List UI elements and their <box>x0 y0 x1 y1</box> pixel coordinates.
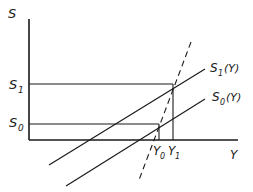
diagram-canvas: S Y S 1 S 0 S 1 (Y) S 0 (Y) Y 0 Y 1 <box>0 0 253 192</box>
s1-level-sub: 1 <box>18 85 24 95</box>
s-axis-label: S <box>8 6 16 21</box>
s1-curve-arg: (Y) <box>224 62 239 75</box>
s1-level-label: S <box>9 77 17 92</box>
s0-level-label: S <box>9 115 17 130</box>
s0-curve-label: S <box>212 90 220 104</box>
y1-sub: 1 <box>175 152 180 161</box>
s1-curve-sub: 1 <box>218 69 223 78</box>
s1-curve-label: S <box>210 61 218 75</box>
y0-sub: 0 <box>160 152 165 161</box>
savings-income-diagram: S Y S 1 S 0 S 1 (Y) S 0 (Y) Y 0 Y 1 <box>0 0 253 192</box>
s1-curve-line <box>49 69 205 165</box>
y-axis-label: Y <box>230 148 239 162</box>
s0-curve-arg: (Y) <box>226 91 241 104</box>
s0-level-sub: 0 <box>18 123 24 133</box>
s0-curve-sub: 0 <box>220 98 225 107</box>
